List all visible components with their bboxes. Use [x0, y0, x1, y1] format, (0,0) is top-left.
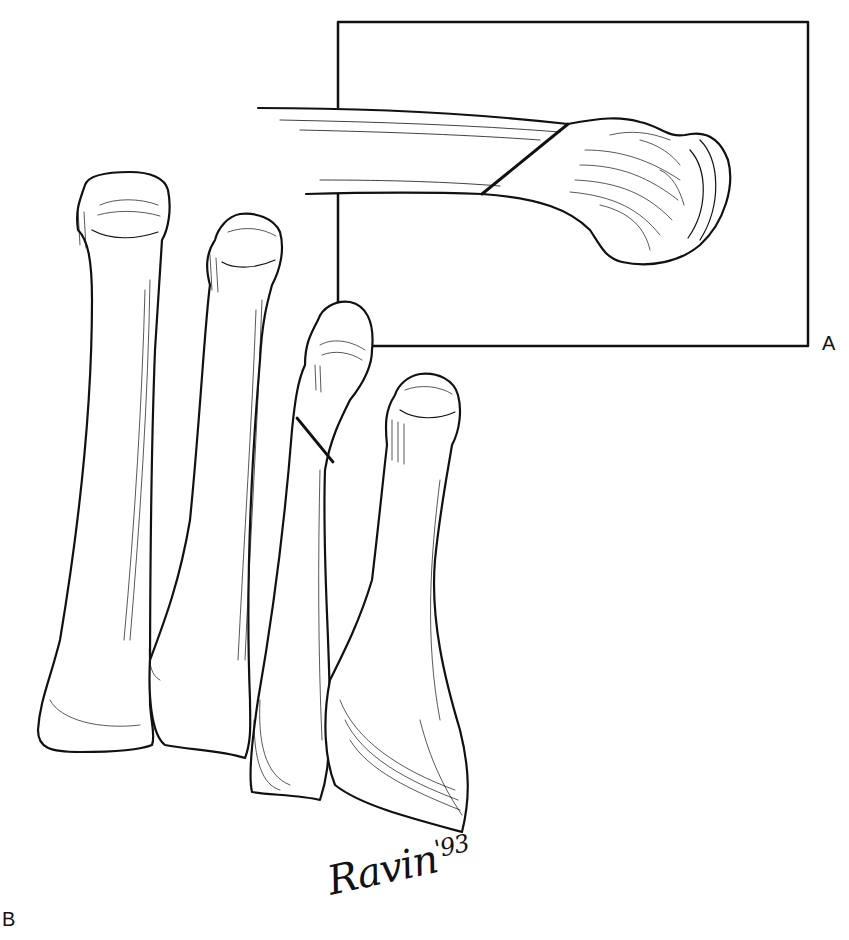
panel-label-a: A: [822, 332, 835, 355]
metatarsal-4: [325, 374, 467, 832]
panel-b-metatarsals: [38, 172, 468, 832]
panel-label-b: B: [2, 908, 15, 931]
signature-year: '93: [432, 829, 471, 863]
panel-a-inset: [258, 22, 808, 346]
metatarsal-illustration: [0, 0, 849, 940]
lateral-metatarsal: [258, 108, 730, 264]
